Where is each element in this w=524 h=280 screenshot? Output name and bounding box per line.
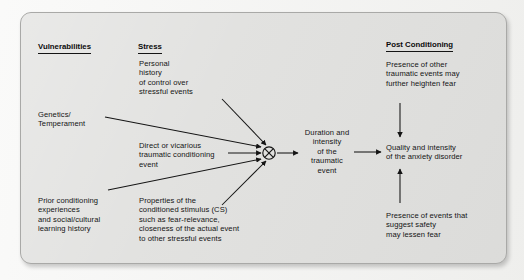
node-prior-conditioning: Prior conditioning experiences and socia… <box>38 196 100 234</box>
node-direct-or-vicarious: Direct or vicarious traumatic conditioni… <box>139 141 215 169</box>
heading-vulnerabilities: Vulnerabilities <box>38 42 91 54</box>
node-genetics-temperament: Genetics/ Temperament <box>38 110 85 129</box>
node-cs-properties: Properties of the conditioned stimulus (… <box>139 196 239 243</box>
node-outcome-quality-intensity: Quality and intensity of the anxiety dis… <box>386 143 462 162</box>
node-duration-intensity: Duration and intensity of the traumatic … <box>299 128 355 175</box>
diagram-screenshot: Vulnerabilities Stress Post Conditioning… <box>0 0 524 280</box>
heading-post-conditioning: Post Conditioning <box>386 40 453 52</box>
heading-stress: Stress <box>138 42 162 54</box>
node-personal-history: Personal history of control over stressf… <box>139 59 193 97</box>
node-heighten-fear: Presence of other traumatic events may f… <box>386 60 460 88</box>
node-lessen-fear: Presence of events that suggest safety m… <box>386 211 468 239</box>
